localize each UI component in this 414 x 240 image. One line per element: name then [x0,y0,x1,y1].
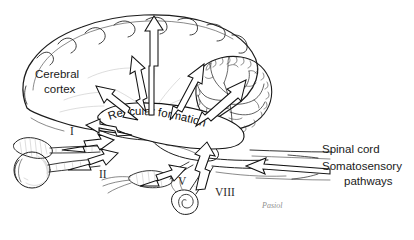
somatosensory-label-line2: pathways [344,175,393,187]
anatomical-figure: Reticular formation [0,0,414,240]
figure-canvas: Reticular formation [0,0,414,240]
incoming-cranial-arrows-left [62,134,118,170]
nerve-numeral-V: V [178,175,187,187]
leader-line-somatosensory [292,174,318,179]
artist-signature: Pasiol [261,201,283,210]
cerebral-cortex-label-line1: Cerebral [35,68,79,80]
spinal-cord-label: Spinal cord [322,143,380,155]
arrow-somatosensory-inflow [246,158,330,174]
nerve-numeral-II: II [99,168,107,180]
somatosensory-label-line1: Somatosensory [322,160,402,172]
cerebral-cortex-label-line2: cortex [44,83,76,95]
somatosensory-inflow-arrow [246,158,330,174]
nerve-numeral-VIII: VIII [215,186,235,198]
nerve-numeral-I: I [70,125,74,137]
arrow-to-cortex-center [145,16,163,115]
